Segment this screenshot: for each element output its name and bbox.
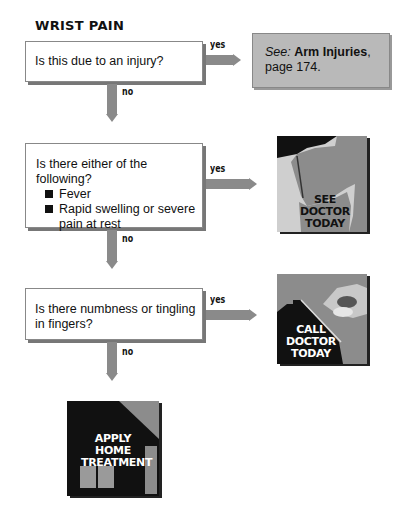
no-label-2: no (122, 232, 133, 245)
symptom-list: Fever Rapid swelling or severe pain at r… (36, 187, 202, 232)
see-doctor-label: SEE DOCTOR TODAY (297, 194, 353, 230)
call-doctor-label: CALL DOCTOR TODAY (283, 324, 339, 360)
question-box-injury: Is this due to an injury? (25, 41, 203, 82)
see-page: page 174. (265, 60, 321, 74)
no-arrow-2 (107, 230, 117, 261)
bullet-icon (45, 205, 53, 213)
see-prefix: See: (265, 45, 291, 59)
call-doctor-today-icon: CALL DOCTOR TODAY (277, 274, 367, 364)
no-label-1: no (122, 85, 133, 98)
label-line: TREATMENT (81, 457, 145, 469)
no-label-3: no (122, 345, 133, 358)
question-text: Is there numbness or tingling in fingers… (35, 302, 202, 332)
yes-label-3: yes (210, 293, 225, 306)
yes-arrow-2 (206, 179, 249, 189)
question-text: Is there either of the following? (36, 157, 202, 187)
see-reference-box: See: Arm Injuries, page 174. (252, 33, 390, 88)
yes-arrow-3 (206, 310, 249, 320)
label-line: TODAY (283, 348, 339, 360)
question-box-numbness: Is there numbness or tingling in fingers… (25, 288, 203, 340)
no-arrow-3 (107, 342, 117, 373)
home-treatment-label: APPLY HOME TREATMENT (81, 433, 145, 469)
yes-label-1: yes (210, 38, 225, 51)
bullet-icon (45, 190, 53, 198)
question-text: Is this due to an injury? (35, 54, 202, 69)
symptom-text: Fever (59, 187, 91, 201)
see-link-arm-injuries[interactable]: Arm Injuries (294, 45, 367, 59)
apply-home-treatment-icon: APPLY HOME TREATMENT (67, 401, 159, 496)
see-doctor-today-icon: SEE DOCTOR TODAY (277, 136, 367, 232)
no-arrow-1 (107, 84, 117, 114)
question-box-fever: Is there either of the following? Fever … (25, 143, 203, 228)
label-line: TODAY (297, 218, 353, 230)
symptom-text: Rapid swelling or severe pain at rest (59, 202, 195, 231)
symptom-item: Rapid swelling or severe pain at rest (36, 202, 202, 232)
yes-arrow-1 (206, 55, 233, 65)
page-title: WRIST PAIN (35, 18, 124, 33)
symptom-item: Fever (36, 187, 202, 202)
see-comma: , (367, 45, 370, 59)
yes-label-2: yes (210, 162, 225, 175)
